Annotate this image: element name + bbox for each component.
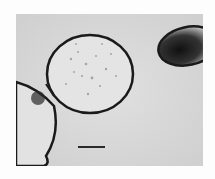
- micrograph-illustration: [16, 14, 203, 166]
- micrograph: [16, 14, 203, 166]
- scale-bar: [78, 146, 105, 148]
